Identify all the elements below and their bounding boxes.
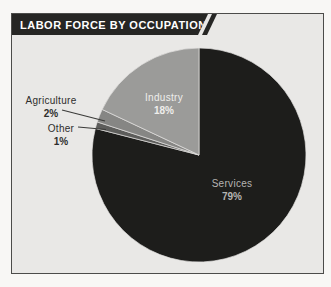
agriculture-label: Agriculture 2% — [25, 95, 76, 120]
other-label: Other 1% — [48, 123, 75, 148]
chart-title: LABOR FORCE BY OCCUPATION — [20, 19, 207, 31]
other-label-value: 1% — [48, 136, 75, 148]
chart-card: LABOR FORCE BY OCCUPATION Agriculture 2%… — [11, 13, 324, 274]
chart-title-bar: LABOR FORCE BY OCCUPATION — [12, 14, 208, 35]
agriculture-label-value: 2% — [25, 108, 76, 120]
services-label-value: 79% — [212, 191, 253, 203]
other-label-name: Other — [48, 123, 75, 135]
page: { "page": { "background": "#f8f7f5" }, "… — [0, 0, 331, 287]
industry-label-name: Industry — [145, 92, 183, 104]
services-label-name: Services — [212, 178, 253, 190]
services-label: Services 79% — [212, 178, 253, 203]
industry-label: Industry 18% — [145, 92, 183, 117]
agriculture-label-name: Agriculture — [25, 95, 76, 107]
industry-label-value: 18% — [145, 105, 183, 117]
chart-area: LABOR FORCE BY OCCUPATION Agriculture 2%… — [12, 14, 323, 273]
